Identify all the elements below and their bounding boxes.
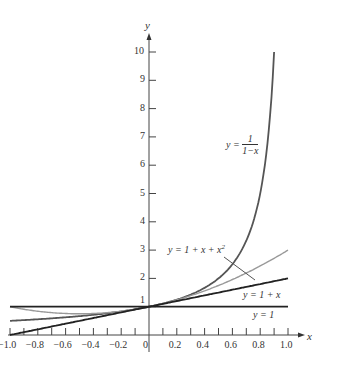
x-tick-label: 0 [143,340,148,350]
fraction: 1 1−x [242,133,258,156]
y-tick-label: 9 [140,74,145,84]
label-quadratic-text: y = 1 + x + x [168,244,222,255]
y-tick-label: 5 [140,188,145,198]
label-constant: y = 1 [253,310,274,320]
y-tick-label: 1 [140,295,145,305]
x-tick-label: 0.2 [169,340,182,350]
x-axis-label: x [307,331,312,342]
y-tick-label: 2 [140,272,145,282]
label-quadratic: y = 1 + x + x2 [168,244,225,255]
fraction-numerator: 1 [242,133,258,145]
label-reciprocal: y = 1 1−x [226,133,258,156]
x-tick-label: 1.0 [280,340,293,350]
label-reciprocal-lhs: y = [226,139,240,150]
label-linear: y = 1 + x [243,290,280,300]
x-tick-label: −0.8 [26,340,44,350]
y-tick-label: 6 [140,159,145,169]
x-tick-label: −0.2 [109,340,127,350]
x-tick-label: −0.4 [81,340,99,350]
y-tick-label: 8 [140,103,145,113]
fraction-denominator: 1−x [242,145,258,156]
y-tick-label: 4 [140,216,145,226]
x-tick-label: 0.6 [224,340,237,350]
x-tick-label: −0.6 [54,340,72,350]
y-axis-label: y [145,20,150,31]
label-quadratic-exponent: 2 [222,243,226,251]
y-tick-label: 10 [134,46,144,56]
x-tick-label: 0.8 [252,340,265,350]
chart-canvas [0,0,337,371]
y-tick-label: 7 [140,131,145,141]
y-tick-label: 3 [140,244,145,254]
x-tick-label: 0.4 [197,340,210,350]
y-axis-arrow-icon [147,33,152,40]
x-axis-arrow-icon [298,333,305,338]
x-tick-label: −1.0 [0,340,16,350]
